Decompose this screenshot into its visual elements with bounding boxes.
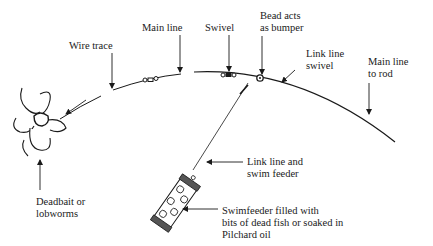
deadbait-worms-icon [14,88,66,156]
swimfeeder-icon [150,170,203,233]
label-link-swivel: Link line swivel [306,48,344,72]
link-swivel-icon [240,85,248,94]
label-main-line: Main line [142,22,183,34]
label-main-to-rod: Main line to rod [368,56,409,80]
main-line-to-rod [194,72,395,142]
wire-trace-line [60,96,101,119]
label-link-feeder: Link line and swim feeder [247,156,303,180]
link-line [193,83,248,170]
swivel-left-icon [143,77,158,83]
label-deadbait: Deadbait or lobworms [36,196,85,220]
label-bead: Bead acts as bumper [260,10,303,34]
bait-hook-arrow [66,100,86,114]
label-swivel: Swivel [205,22,234,34]
bead-icon [257,75,263,81]
swivel-icon [221,73,236,77]
label-swimfeeder: Swimfeeder filled with bits of dead fish… [222,205,343,241]
link-swivel-arrow [282,70,295,82]
label-wire-trace: Wire trace [69,40,113,52]
main-line-left [113,74,181,90]
